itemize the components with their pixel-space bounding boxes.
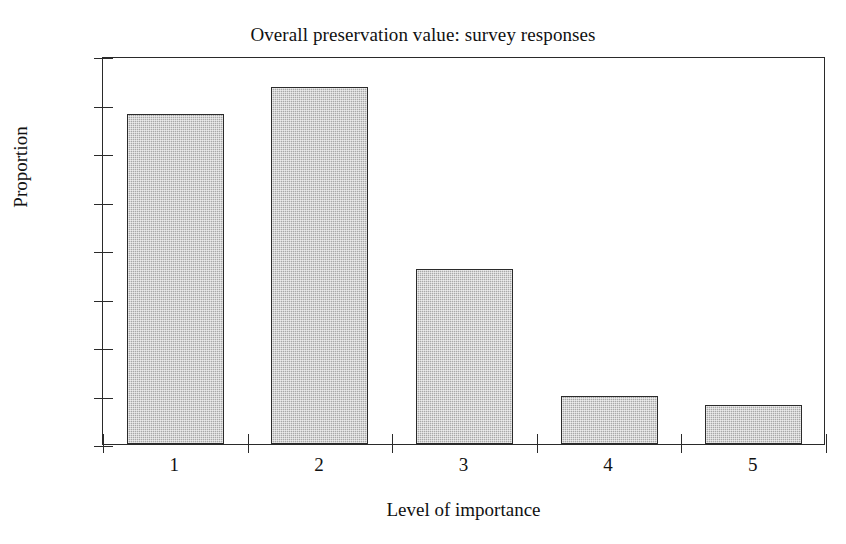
- x-tick-label: 4: [568, 455, 648, 474]
- bar: [416, 269, 513, 444]
- x-tick-mark: [681, 434, 682, 453]
- y-tick-mark: [94, 398, 113, 399]
- x-tick-mark: [392, 434, 393, 453]
- y-tick-mark: [94, 58, 113, 59]
- y-tick-mark: [94, 252, 113, 253]
- y-tick-mark: [94, 301, 113, 302]
- x-axis-title: Level of importance: [102, 499, 825, 521]
- y-tick-mark: [94, 349, 113, 350]
- x-tick-mark: [103, 434, 104, 453]
- x-tick-label: 5: [713, 455, 793, 474]
- plot-area: 00.050.10.150.20.250.30.350.4: [102, 57, 825, 445]
- x-tick-label: 1: [134, 455, 214, 474]
- bar: [705, 405, 802, 444]
- y-tick-mark: [94, 204, 113, 205]
- bar-chart-figure: Overall preservation value: survey respo…: [0, 0, 846, 544]
- y-tick-mark: [94, 107, 113, 108]
- chart-title: Overall preservation value: survey respo…: [0, 24, 846, 46]
- bar: [127, 114, 224, 444]
- x-tick-mark: [826, 434, 827, 453]
- bar: [271, 87, 368, 444]
- x-tick-mark: [248, 434, 249, 453]
- x-tick-label: 2: [279, 455, 359, 474]
- bar: [561, 396, 658, 445]
- x-tick-mark: [537, 434, 538, 453]
- y-axis-title: Proportion: [10, 97, 32, 237]
- x-tick-label: 3: [424, 455, 504, 474]
- y-tick-mark: [94, 155, 113, 156]
